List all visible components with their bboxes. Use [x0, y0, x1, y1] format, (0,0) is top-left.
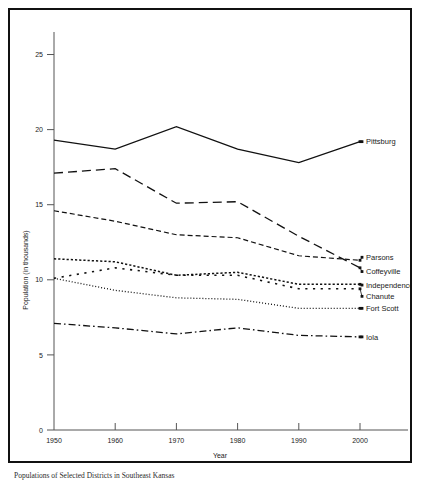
figure-caption: Populations of Selected Districts in Sou…: [14, 470, 412, 481]
chart-series-group: [54, 127, 363, 339]
x-tick-label: 1960: [107, 437, 123, 444]
series-label-coffeyville: Coffeyville: [366, 267, 400, 276]
series-label-pittsburg: Pittsburg: [366, 137, 396, 146]
series-label-chanute: Chanute: [366, 292, 394, 301]
series-line-coffeyville: [54, 169, 360, 268]
y-tick-label: 10: [35, 276, 43, 283]
line-chart: 0510152025 195019601970198019902000 Popu…: [10, 10, 410, 461]
x-tick-label: 1980: [230, 437, 246, 444]
x-tick-label: 2000: [352, 437, 368, 444]
series-line-pittsburg: [54, 127, 360, 163]
series-label-fort-scott: Fort Scott: [366, 304, 399, 313]
x-axis-ticks: 195019601970198019902000: [46, 423, 368, 444]
series-label-marker: [361, 256, 364, 259]
x-tick-label: 1950: [46, 437, 62, 444]
series-label-independence: Independence: [366, 281, 410, 290]
series-line-independence: [54, 259, 360, 285]
series-label-marker: [361, 284, 364, 287]
chart-series-labels: PittsburgCoffeyvilleParsonsIndependenceC…: [366, 137, 410, 341]
series-label-marker: [361, 307, 364, 310]
y-tick-label: 5: [39, 352, 43, 359]
series-label-iola: Iola: [366, 333, 379, 342]
series-label-marker: [361, 295, 364, 298]
y-axis-title: Population (in thousands): [22, 230, 30, 309]
series-label-marker: [361, 335, 364, 338]
series-line-parsons: [54, 211, 360, 261]
series-line-iola: [54, 323, 360, 337]
series-label-marker: [361, 140, 364, 143]
series-line-fort-scott: [54, 278, 360, 308]
series-label-parsons: Parsons: [366, 253, 394, 262]
series-label-marker: [361, 270, 364, 273]
chart-frame: 0510152025 195019601970198019902000 Popu…: [8, 8, 412, 463]
y-tick-label: 25: [35, 51, 43, 58]
chart-axes: [54, 32, 408, 430]
y-tick-label: 15: [35, 201, 43, 208]
y-tick-label: 20: [35, 126, 43, 133]
x-tick-label: 1970: [169, 437, 185, 444]
figure-container: 0510152025 195019601970198019902000 Popu…: [0, 0, 422, 485]
x-tick-label: 1990: [291, 437, 307, 444]
y-axis-ticks: 0510152025: [35, 51, 54, 433]
series-line-chanute: [54, 268, 360, 289]
y-tick-label: 0: [39, 427, 43, 434]
x-axis-title: Year: [213, 452, 228, 459]
